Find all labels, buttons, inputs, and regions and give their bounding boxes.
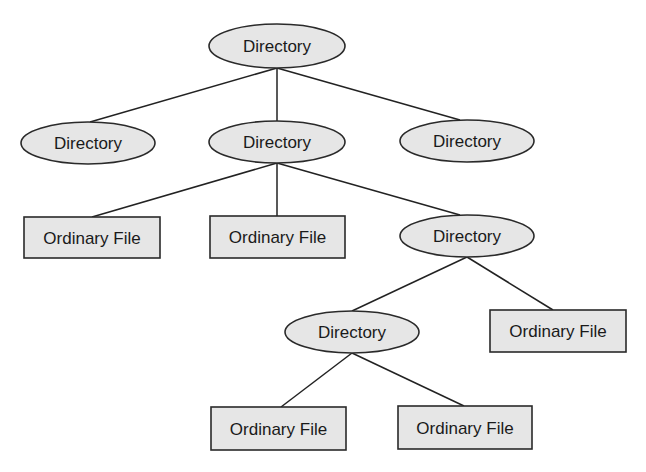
node-label: Ordinary File (416, 419, 513, 438)
edge-d_sub-to-d_subsub (352, 257, 467, 311)
tree-nodes: DirectoryDirectoryDirectoryDirectoryOrdi… (21, 24, 626, 450)
directory-node-d_sub: Directory (400, 215, 534, 257)
edge-d_subsub-to-f4 (281, 353, 352, 407)
node-label: Ordinary File (230, 420, 327, 439)
file-node-f3: Ordinary File (490, 310, 626, 352)
edge-d_mid-to-d_sub (277, 163, 460, 215)
edge-root-to-d_right (277, 68, 460, 120)
node-label: Directory (243, 37, 312, 56)
file-node-f5: Ordinary File (398, 406, 532, 449)
directory-node-root: Directory (209, 24, 345, 68)
file-node-f4: Ordinary File (211, 407, 346, 450)
node-label: Directory (243, 133, 312, 152)
node-label: Ordinary File (509, 322, 606, 341)
file-node-f2: Ordinary File (210, 216, 345, 258)
edge-root-to-d_left (90, 68, 277, 122)
directory-node-d_mid: Directory (209, 121, 345, 163)
node-label: Ordinary File (229, 228, 326, 247)
directory-node-d_right: Directory (400, 120, 534, 162)
directory-node-d_subsub: Directory (285, 311, 419, 353)
file-node-f1: Ordinary File (24, 217, 160, 258)
node-label: Directory (318, 323, 387, 342)
node-label: Ordinary File (43, 229, 140, 248)
edge-d_sub-to-f3 (467, 257, 553, 310)
directory-node-d_left: Directory (21, 122, 155, 164)
edge-d_subsub-to-f5 (352, 353, 464, 406)
node-label: Directory (54, 134, 123, 153)
node-label: Directory (433, 227, 502, 246)
node-label: Directory (433, 132, 502, 151)
edge-d_mid-to-f1 (92, 163, 277, 217)
directory-tree-diagram: DirectoryDirectoryDirectoryDirectoryOrdi… (0, 0, 646, 472)
